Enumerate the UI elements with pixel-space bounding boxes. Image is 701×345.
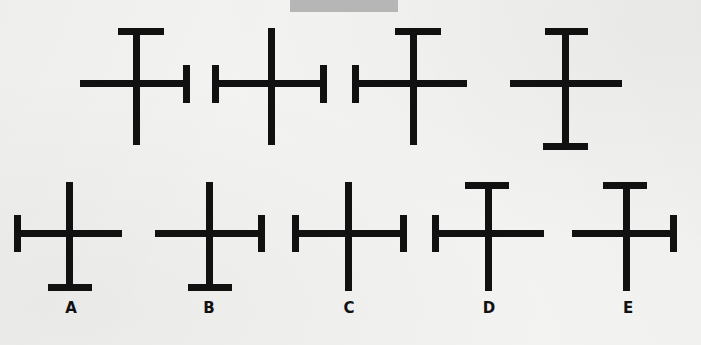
option-figure-b[interactable]: [155, 182, 270, 297]
bottom-cap-bar: [48, 284, 92, 291]
option-figure-a[interactable]: [14, 182, 124, 297]
sequence-figure-3: [352, 22, 474, 152]
sequence-figure-1: [80, 22, 200, 152]
option-label-d: D: [474, 299, 504, 317]
left-end-tick: [432, 215, 439, 252]
left-end-tick: [14, 215, 21, 252]
horizontal-bar: [510, 80, 622, 87]
left-end-tick: [292, 215, 299, 252]
option-figure-d[interactable]: [432, 176, 550, 298]
option-figure-e[interactable]: [572, 176, 690, 298]
top-cap-bar: [118, 28, 164, 35]
sequence-figure-4: [510, 22, 632, 157]
horizontal-bar: [80, 80, 190, 87]
horizontal-bar: [572, 230, 677, 237]
top-cap-bar: [395, 28, 441, 35]
right-end-tick: [400, 215, 407, 252]
sequence-figure-2: [212, 22, 334, 152]
horizontal-bar: [155, 230, 265, 237]
option-label-b: B: [194, 299, 224, 317]
left-end-tick: [352, 65, 359, 103]
bottom-cap-bar: [188, 284, 232, 291]
puzzle-page: A B C D: [0, 0, 701, 345]
left-end-tick: [212, 65, 219, 103]
top-cap-bar: [465, 182, 509, 189]
vertical-stem: [562, 28, 569, 150]
right-end-tick: [320, 65, 327, 103]
option-label-e: E: [613, 299, 643, 317]
option-label-c: C: [334, 299, 364, 317]
right-end-tick: [183, 65, 190, 103]
right-end-tick: [670, 215, 677, 252]
horizontal-bar: [212, 80, 327, 87]
right-end-tick: [258, 215, 265, 252]
horizontal-bar: [14, 230, 122, 237]
option-figure-c[interactable]: [292, 182, 410, 297]
bottom-cap-bar: [543, 143, 588, 150]
option-label-a: A: [56, 299, 86, 317]
top-cap-bar: [545, 28, 588, 35]
horizontal-bar: [292, 230, 407, 237]
redacted-title-bar: [290, 0, 398, 12]
horizontal-bar: [432, 230, 544, 237]
top-cap-bar: [603, 182, 647, 189]
horizontal-bar: [352, 80, 467, 87]
